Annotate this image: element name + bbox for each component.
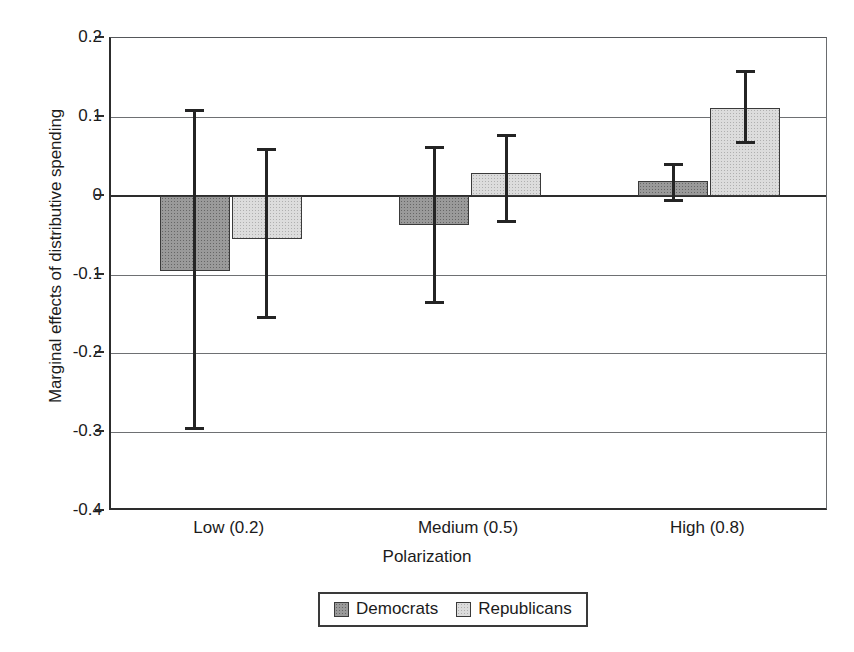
x-tick-label: High (0.8) — [670, 518, 745, 538]
legend-item-republicans: Republicans — [456, 599, 572, 619]
error-cap-upper-republicans-0 — [257, 148, 276, 151]
error-cap-upper-republicans-1 — [497, 134, 516, 137]
error-cap-upper-democrats-2 — [664, 163, 683, 166]
x-tick-label: Low (0.2) — [193, 518, 264, 538]
legend-swatch-democrats — [334, 602, 349, 617]
y-tick-mark — [95, 36, 104, 38]
error-cap-lower-republicans-1 — [497, 220, 516, 223]
error-cap-lower-republicans-2 — [736, 141, 755, 144]
y-tick-label: -0.4 — [44, 500, 102, 520]
gridline — [111, 353, 826, 354]
y-tick-label: 0.2 — [44, 27, 102, 47]
error-cap-upper-democrats-0 — [185, 109, 204, 112]
y-tick-mark — [95, 430, 104, 432]
legend-swatch-republicans — [456, 602, 471, 617]
gridline — [111, 432, 826, 433]
y-tick-mark — [95, 273, 104, 275]
x-axis-title: Polarization — [0, 547, 854, 567]
error-cap-upper-democrats-1 — [425, 146, 444, 149]
y-tick-mark — [95, 115, 104, 117]
error-bar-republicans-2 — [744, 70, 747, 143]
y-tick-mark — [95, 509, 104, 511]
y-tick-mark — [95, 194, 104, 196]
y-tick-mark — [95, 351, 104, 353]
y-tick-label: 0 — [44, 185, 102, 205]
error-bar-republicans-1 — [505, 134, 508, 223]
legend-item-democrats: Democrats — [334, 599, 438, 619]
y-tick-label: -0.2 — [44, 342, 102, 362]
y-tick-label: -0.3 — [44, 421, 102, 441]
legend-label-republicans: Republicans — [478, 599, 572, 619]
error-bar-democrats-2 — [672, 163, 675, 202]
y-tick-label: 0.1 — [44, 106, 102, 126]
error-cap-lower-democrats-2 — [664, 199, 683, 202]
error-bar-republicans-0 — [265, 148, 268, 319]
error-cap-lower-democrats-1 — [425, 301, 444, 304]
error-cap-lower-democrats-0 — [185, 427, 204, 430]
error-cap-lower-republicans-0 — [257, 316, 276, 319]
error-cap-upper-republicans-2 — [736, 70, 755, 73]
bar-chart-figure: Marginal effects of distributive spendin… — [0, 0, 854, 652]
plot-area — [109, 37, 827, 510]
legend-label-democrats: Democrats — [356, 599, 438, 619]
y-tick-label: -0.1 — [44, 264, 102, 284]
x-tick-label: Medium (0.5) — [418, 518, 518, 538]
gridline — [111, 275, 826, 276]
chart-legend: Democrats Republicans — [318, 592, 588, 627]
error-bar-democrats-1 — [433, 146, 436, 304]
error-bar-democrats-0 — [193, 109, 196, 430]
